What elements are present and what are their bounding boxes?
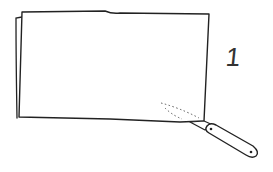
knife-rivet-2 — [250, 151, 253, 154]
folded-sheet — [19, 11, 209, 122]
knife-rivet-1 — [210, 128, 213, 131]
knife — [206, 124, 258, 158]
folded-sheet-illustration — [0, 0, 273, 172]
knife-handle — [206, 124, 258, 158]
